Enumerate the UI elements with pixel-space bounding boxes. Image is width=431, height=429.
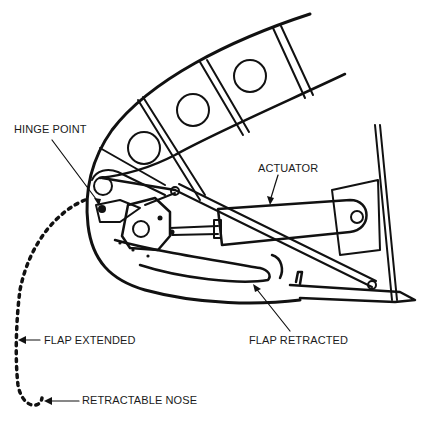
leading-edge-flap-diagram	[0, 0, 431, 429]
actuator-leader	[270, 175, 278, 201]
hole-3	[234, 60, 266, 92]
hole-2	[177, 94, 209, 126]
hinge-pin-icon	[98, 205, 106, 213]
flap-retracted-leader	[255, 287, 290, 331]
label-flap-extended: FLAP EXTENDED	[44, 334, 136, 346]
bellcrank	[122, 198, 175, 250]
flap-retracted-shape	[115, 240, 302, 284]
label-actuator: ACTUATOR	[258, 162, 318, 174]
lightening-holes	[128, 60, 266, 164]
hole-1	[128, 132, 160, 164]
label-retractable-nose: RETRACTABLE NOSE	[82, 394, 197, 406]
label-flap-retracted: FLAP RETRACTED	[249, 334, 348, 346]
label-hinge-point: HINGE POINT	[14, 123, 87, 135]
flap-extended-path	[16, 200, 85, 405]
